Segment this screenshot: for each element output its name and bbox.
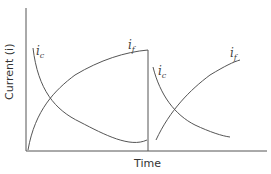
ic-label-2: ic (158, 64, 166, 80)
if-curve-2 (156, 60, 240, 140)
if-curve-1 (28, 50, 148, 150)
y-axis-label: Current (i) (3, 44, 16, 100)
chart-canvas (0, 0, 271, 174)
if-label-1: if (128, 38, 135, 54)
ic-curve-1 (33, 48, 147, 142)
x-axis-label: Time (134, 157, 161, 170)
if-label-2: if (230, 46, 237, 62)
ic-label-1: ic (36, 44, 44, 60)
